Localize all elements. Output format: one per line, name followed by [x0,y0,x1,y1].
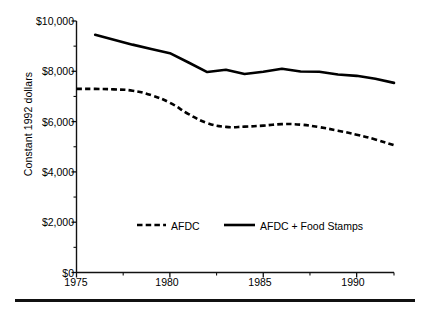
x-axis-tick-label-1975: 1975 [53,276,99,288]
y-axis-tick-label-10000: $10,000 [14,15,74,27]
y-axis-tick-label-2000: $2,000 [14,216,74,228]
x-axis-tick-label-1985: 1985 [237,276,283,288]
y-axis-tick-label-8000: $8,000 [14,65,74,77]
y-axis-ticks [72,21,77,273]
series-group [77,35,395,145]
x-axis-tick-label-1980: 1980 [144,276,190,288]
axes-group [72,21,395,278]
y-axis-tick-label-4000: $4,000 [14,166,74,178]
series-line-afdc [77,89,395,145]
legend-item-afdc-food-stamps-label: AFDC + Food Stamps [260,220,363,232]
x-axis-tick-label-1990: 1990 [330,276,376,288]
chart-figure: Constant 1992 dollars $10,000 $8,000 $6,… [0,0,421,314]
footer-rule [15,299,415,302]
y-axis-tick-label-6000: $6,000 [14,116,74,128]
legend-item-afdc-label: AFDC [171,220,200,232]
series-line-afdc-food-stamps [95,35,394,83]
